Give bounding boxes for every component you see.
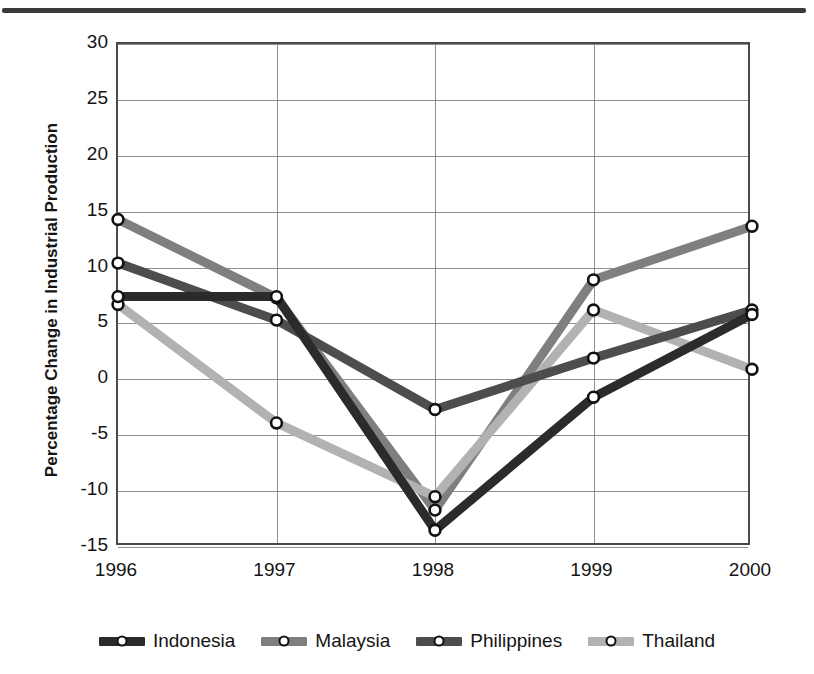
- data-point-marker: [747, 221, 758, 232]
- y-tick-label: 0: [48, 367, 108, 386]
- x-tick-label: 2000: [695, 560, 805, 579]
- data-point-marker: [271, 315, 282, 326]
- chart-figure: Percentage Change in Industrial Producti…: [0, 0, 814, 674]
- legend-label: Indonesia: [153, 630, 235, 652]
- data-point-marker: [271, 291, 282, 302]
- legend-item-thailand[interactable]: Thailand: [588, 630, 715, 652]
- legend-label: Thailand: [642, 630, 715, 652]
- legend-swatch: [416, 637, 462, 646]
- y-axis-tick-labels: -15-10-5051015202530: [42, 42, 108, 545]
- data-point-marker: [430, 525, 441, 536]
- legend-swatch: [261, 637, 307, 646]
- y-tick-label: -15: [48, 535, 108, 554]
- y-tick-label: 30: [48, 32, 108, 51]
- x-tick-label: 1999: [537, 560, 647, 579]
- legend-swatch: [99, 637, 145, 646]
- data-point-marker: [113, 214, 124, 225]
- series-line-philippines: [118, 263, 752, 409]
- x-tick-label: 1996: [61, 560, 171, 579]
- gridline-horizontal: [118, 547, 748, 548]
- y-tick-label: 25: [48, 88, 108, 107]
- legend-marker-icon: [606, 636, 617, 647]
- data-point-marker: [430, 491, 441, 502]
- y-tick-label: 10: [48, 256, 108, 275]
- data-point-marker: [588, 274, 599, 285]
- legend-item-philippines[interactable]: Philippines: [416, 630, 562, 652]
- data-point-marker: [430, 404, 441, 415]
- x-tick-label: 1997: [220, 560, 330, 579]
- legend-label: Malaysia: [315, 630, 390, 652]
- y-tick-label: -5: [48, 423, 108, 442]
- legend-item-malaysia[interactable]: Malaysia: [261, 630, 390, 652]
- data-point-marker: [588, 353, 599, 364]
- legend-swatch: [588, 637, 634, 646]
- data-point-marker: [113, 291, 124, 302]
- data-point-marker: [747, 309, 758, 320]
- data-point-marker: [588, 305, 599, 316]
- data-point-marker: [747, 364, 758, 375]
- legend-item-indonesia[interactable]: Indonesia: [99, 630, 235, 652]
- plot-area: [116, 42, 750, 545]
- series-line-thailand: [118, 304, 752, 496]
- data-point-marker: [113, 258, 124, 269]
- legend-marker-icon: [116, 636, 127, 647]
- data-point-marker: [588, 392, 599, 403]
- y-tick-label: 5: [48, 311, 108, 330]
- data-point-marker: [430, 505, 441, 516]
- y-tick-label: 15: [48, 200, 108, 219]
- y-tick-label: 20: [48, 144, 108, 163]
- y-tick-label: -10: [48, 479, 108, 498]
- chart-legend: IndonesiaMalaysiaPhilippinesThailand: [0, 630, 814, 652]
- data-point-marker: [271, 418, 282, 429]
- x-axis-tick-labels: 19961997199819992000: [116, 560, 750, 588]
- series-lines: [118, 44, 752, 547]
- legend-label: Philippines: [470, 630, 562, 652]
- x-tick-label: 1998: [378, 560, 488, 579]
- top-rule-divider: [2, 8, 806, 13]
- legend-marker-icon: [279, 636, 290, 647]
- legend-marker-icon: [434, 636, 445, 647]
